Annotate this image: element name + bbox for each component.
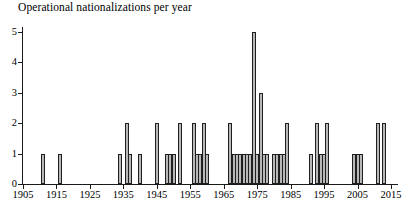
x-tick-label: 1915: [46, 190, 67, 201]
x-axis-line: [22, 184, 398, 185]
bar: [325, 123, 329, 184]
bar: [58, 154, 62, 184]
bar: [155, 123, 159, 184]
y-axis-line: [22, 27, 23, 185]
bar: [309, 154, 313, 184]
plot-area: 012345 190519151925193519451955196519751…: [22, 27, 404, 185]
y-tick-label: 5: [12, 27, 17, 38]
x-tick-label: 1965: [213, 190, 234, 201]
x-tick-label: 1935: [113, 190, 134, 201]
bar: [172, 154, 176, 184]
y-tick-label: 4: [12, 57, 17, 68]
x-tick-label: 1975: [247, 190, 268, 201]
bar: [178, 123, 182, 184]
x-tick-label: 1955: [180, 190, 201, 201]
y-tick-mark: [18, 93, 22, 94]
bar: [138, 154, 142, 184]
x-tick-label: 1925: [79, 190, 100, 201]
bar: [265, 154, 269, 184]
y-tick-mark: [18, 154, 22, 155]
bar: [205, 154, 209, 184]
y-tick-label: 3: [12, 88, 17, 99]
bar: [376, 123, 380, 184]
bar: [41, 154, 45, 184]
bar: [382, 123, 386, 184]
x-tick-label: 1985: [280, 190, 301, 201]
bar: [118, 154, 122, 184]
y-tick-mark: [18, 32, 22, 33]
y-tick-mark: [18, 184, 22, 185]
x-tick-label: 2015: [381, 190, 402, 201]
bar: [128, 154, 132, 184]
x-tick-label: 2005: [347, 190, 368, 201]
y-tick-label: 2: [12, 118, 17, 129]
x-tick-label: 1905: [13, 190, 34, 201]
chart-title: Operational nationalizations per year: [18, 1, 192, 13]
bar: [359, 154, 363, 184]
y-tick-label: 0: [12, 179, 17, 190]
y-tick-label: 1: [12, 148, 17, 159]
x-tick-label: 1995: [314, 190, 335, 201]
bar: [285, 123, 289, 184]
y-tick-mark: [18, 123, 22, 124]
x-tick-label: 1945: [146, 190, 167, 201]
y-tick-mark: [18, 62, 22, 63]
chart-root: Operational nationalizations per year 01…: [0, 0, 414, 203]
